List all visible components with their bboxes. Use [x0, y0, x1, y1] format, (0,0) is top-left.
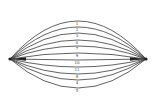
- curve-label: 11: [74, 67, 79, 72]
- curve-label: 2: [76, 27, 79, 32]
- label-group: 1236791011845: [74, 21, 80, 93]
- curve-label: 10: [74, 60, 80, 65]
- curve-label: 1: [76, 21, 79, 26]
- curve-label: 6: [76, 40, 79, 45]
- curve-label: 9: [76, 53, 79, 58]
- curve-label: 3: [76, 33, 79, 38]
- left-node: [8, 57, 11, 60]
- curve-label: 8: [76, 74, 79, 79]
- curve-label: 4: [76, 80, 79, 85]
- curve-label: 5: [76, 88, 79, 93]
- curve-diagram: 1236791011845: [0, 0, 158, 112]
- right-node: [144, 57, 147, 60]
- curve-label: 7: [76, 46, 79, 51]
